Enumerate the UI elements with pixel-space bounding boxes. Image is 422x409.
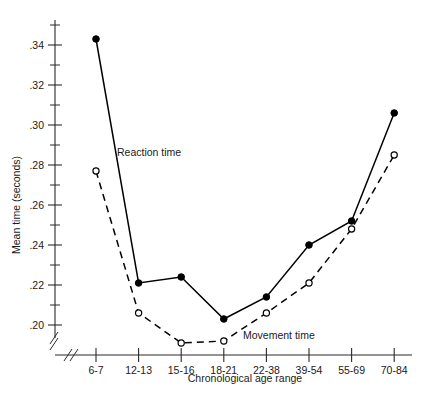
y-tick-label: .24 — [29, 239, 44, 251]
chart-figure: .20.22.24.26.28.30.32.34 6-712-1315-1618… — [0, 0, 422, 409]
line-chart-svg: .20.22.24.26.28.30.32.34 6-712-1315-1618… — [0, 0, 422, 409]
data-point-marker — [349, 226, 355, 232]
series-line-reaction-time — [96, 39, 394, 319]
data-point-marker — [178, 340, 184, 346]
x-tick-label: 55-69 — [338, 364, 365, 376]
y-tick-label: .32 — [29, 79, 44, 91]
y-tick-label: .28 — [29, 159, 44, 171]
x-tick-label: 12-13 — [125, 364, 152, 376]
data-point-marker — [178, 274, 185, 281]
data-point-marker — [221, 316, 228, 323]
series-annotation-label: Movement time — [243, 329, 315, 341]
y-axis: .20.22.24.26.28.30.32.34 — [29, 20, 62, 350]
x-axis-title: Chronological age range — [188, 372, 303, 384]
data-point-marker — [263, 310, 269, 316]
x-tick-label: 70-84 — [381, 364, 408, 376]
data-point-marker — [93, 36, 100, 43]
data-point-marker — [93, 168, 99, 174]
series-annotation-label: Reaction time — [117, 146, 181, 158]
data-point-marker — [221, 338, 227, 344]
data-point-marker — [306, 242, 313, 249]
y-tick-label: .20 — [29, 319, 44, 331]
data-series-layer — [93, 36, 398, 346]
data-point-marker — [348, 218, 355, 225]
data-point-marker — [136, 310, 142, 316]
y-tick-label: .34 — [29, 39, 44, 51]
y-axis-title: Mean time (seconds) — [10, 156, 22, 254]
data-point-marker — [391, 152, 397, 158]
data-point-marker — [135, 280, 142, 287]
y-axis-break-icon — [50, 332, 58, 350]
x-tick-label: 6-7 — [88, 364, 103, 376]
data-point-marker — [263, 294, 270, 301]
data-point-marker — [391, 110, 398, 117]
y-tick-label: .26 — [29, 199, 44, 211]
data-point-marker — [306, 280, 312, 286]
y-axis-tick-labels: .20.22.24.26.28.30.32.34 — [29, 39, 44, 331]
y-tick-label: .22 — [29, 279, 44, 291]
y-tick-label: .30 — [29, 119, 44, 131]
